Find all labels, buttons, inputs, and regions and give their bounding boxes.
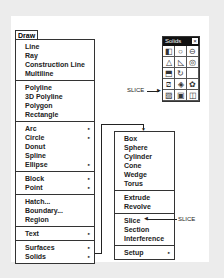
menu-item-label: Extrude: [124, 194, 150, 201]
menu-item-section[interactable]: Section: [115, 225, 174, 234]
menu-item-label: Wedge: [124, 171, 147, 178]
menu-item-label: Polyline: [25, 84, 52, 91]
sphere-icon[interactable]: ○: [175, 46, 187, 57]
menu-item-block[interactable]: Block▸: [16, 174, 94, 183]
draw-menu: LineRayConstruction LineMultilinePolylin…: [15, 39, 95, 264]
menu-separator: [115, 190, 174, 191]
extrude-icon[interactable]: ⬒: [163, 68, 175, 79]
interference-icon[interactable]: ✿: [187, 79, 199, 90]
submenu-arrow-icon: ▸: [88, 229, 90, 238]
arrow-right-icon: ▶: [157, 87, 161, 93]
submenu-arrow-icon: ▸: [88, 183, 90, 192]
menu-separator: [16, 240, 94, 241]
menu-item-ray[interactable]: Ray: [16, 51, 94, 60]
menu-item-torus[interactable]: Torus: [115, 179, 174, 188]
menu-item-label: Point: [25, 184, 43, 191]
menu-item-label: Ellipse: [25, 161, 48, 168]
menu-item-label: Sphere: [124, 144, 148, 151]
menu-item-box[interactable]: Box: [115, 134, 174, 143]
menu-separator: [16, 194, 94, 195]
menu-item-interference[interactable]: Interference: [115, 234, 174, 243]
toolbar-slice-callout: SLICE: [127, 87, 144, 93]
revolve-icon[interactable]: ↻: [175, 68, 187, 79]
menu-item-arc[interactable]: Arc▸: [16, 124, 94, 133]
menu-item-label: Section: [124, 226, 149, 233]
arrow-left-icon: ◀: [144, 215, 148, 221]
submenu-arrow-icon: ▸: [88, 124, 90, 133]
menu-item-ellipse[interactable]: Ellipse▸: [16, 160, 94, 169]
section-icon[interactable]: ◈: [175, 79, 187, 90]
menu-item-label: Polygon: [25, 102, 53, 109]
menu-item-multiline[interactable]: Multiline: [16, 69, 94, 78]
setup-drawing-icon[interactable]: ▨: [163, 90, 175, 101]
menu-item-label: Rectangle: [25, 111, 58, 118]
menu-item-label: Revolve: [124, 203, 151, 210]
menu-item-label: Boundary...: [25, 207, 63, 214]
setup-profile-icon[interactable]: ◫: [187, 90, 199, 101]
submenu-arrow-icon: ▸: [88, 174, 90, 183]
menu-item-line[interactable]: Line: [16, 42, 94, 51]
menu-item-cylinder[interactable]: Cylinder: [115, 152, 174, 161]
menu-item-label: Hatch...: [25, 198, 50, 205]
cylinder-icon[interactable]: ⊖: [187, 46, 199, 57]
menu-separator: [115, 213, 174, 214]
wedge-icon[interactable]: ◺: [175, 57, 187, 68]
menu-item-label: Multiline: [25, 70, 53, 77]
menu-item-solids[interactable]: Solids▸: [16, 252, 94, 261]
menu-item-polygon[interactable]: Polygon: [16, 101, 94, 110]
menu-item-3d-polyline[interactable]: 3D Polyline: [16, 92, 94, 101]
slice-icon[interactable]: ⧄: [163, 79, 175, 90]
menu-item-label: Cone: [124, 162, 142, 169]
menu-item-label: Spline: [25, 152, 46, 159]
box-icon[interactable]: ◧: [163, 46, 175, 57]
submenu-arrow-icon: ▸: [88, 160, 90, 169]
empty-slot: [187, 68, 199, 79]
menu-item-label: Arc: [25, 125, 37, 132]
menu-item-label: Line: [25, 43, 39, 50]
connector-line: [101, 124, 102, 254]
menu-item-extrude[interactable]: Extrude: [115, 193, 174, 202]
menu-item-sphere[interactable]: Sphere: [115, 143, 174, 152]
menu-slice-callout: SLICE: [178, 216, 195, 222]
menu-item-boundary[interactable]: Boundary...: [16, 206, 94, 215]
menu-item-point[interactable]: Point▸: [16, 183, 94, 192]
menu-item-region[interactable]: Region: [16, 215, 94, 224]
submenu-arrow-icon: ▸: [88, 133, 90, 142]
menu-separator: [16, 121, 94, 122]
menu-item-construction-line[interactable]: Construction Line: [16, 60, 94, 69]
menu-item-circle[interactable]: Circle▸: [16, 133, 94, 142]
callout-line: [147, 219, 177, 220]
solids-submenu: BoxSphereCylinderConeWedgeTorusExtrudeRe…: [114, 131, 175, 260]
close-icon[interactable]: ×: [192, 38, 198, 44]
setup-view-icon[interactable]: ▣: [175, 90, 187, 101]
menu-item-revolve[interactable]: Revolve: [115, 202, 174, 211]
menu-item-label: Surfaces: [25, 244, 55, 251]
menu-separator: [16, 226, 94, 227]
menu-item-label: Text: [25, 230, 39, 237]
menu-separator: [16, 171, 94, 172]
menu-item-hatch[interactable]: Hatch...: [16, 197, 94, 206]
menu-item-rectangle[interactable]: Rectangle: [16, 110, 94, 119]
menu-item-label: Box: [124, 135, 137, 142]
menu-item-label: Ray: [25, 52, 38, 59]
submenu-arrow-icon: ▸: [88, 252, 90, 261]
connector-arrow-icon: ▼: [141, 126, 146, 132]
menu-item-label: Cylinder: [124, 153, 152, 160]
torus-icon[interactable]: ◎: [187, 57, 199, 68]
menu-separator: [16, 80, 94, 81]
menu-item-donut[interactable]: Donut: [16, 142, 94, 151]
menu-item-surfaces[interactable]: Surfaces▸: [16, 243, 94, 252]
menu-item-label: Setup: [124, 249, 143, 256]
menu-item-spline[interactable]: Spline: [16, 151, 94, 160]
toolbar-title-bar[interactable]: Solids ×: [163, 37, 199, 46]
menu-item-cone[interactable]: Cone: [115, 161, 174, 170]
connector-line: [101, 124, 144, 125]
menu-item-wedge[interactable]: Wedge: [115, 170, 174, 179]
submenu-arrow-icon: ▸: [168, 248, 170, 257]
menu-item-text[interactable]: Text▸: [16, 229, 94, 238]
menu-item-setup[interactable]: Setup▸: [115, 248, 174, 257]
menu-item-label: Construction Line: [25, 61, 85, 68]
menu-item-polyline[interactable]: Polyline: [16, 83, 94, 92]
menu-item-label: Region: [25, 216, 49, 223]
cone-icon[interactable]: △: [163, 57, 175, 68]
